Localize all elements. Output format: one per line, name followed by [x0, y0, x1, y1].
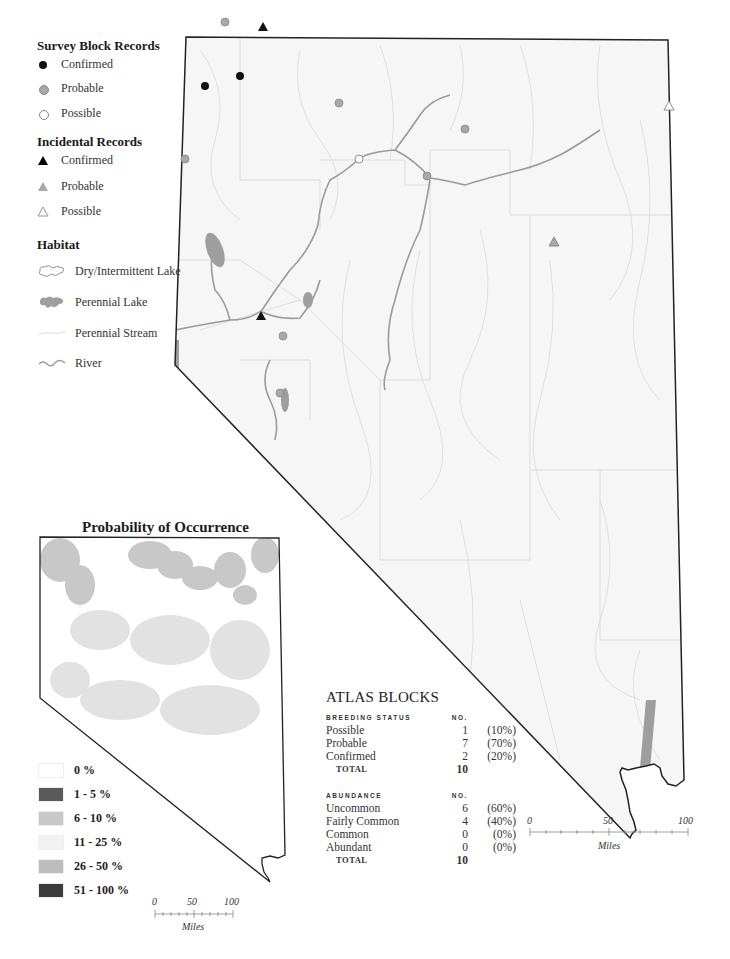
abundance-header-row: ABUNDANCE NO. — [326, 789, 516, 802]
table-row: Uncommon 6 (60%) — [326, 802, 516, 815]
legend-habitat-dry-lake: Dry/Intermittent Lake — [37, 263, 181, 279]
survey-possible-markers[interactable] — [355, 155, 363, 163]
main-scale-label-0: 0 — [527, 815, 532, 826]
abundance-total-row: TOTAL 10 — [326, 854, 516, 867]
probability-class-5: 51 - 100 % — [38, 878, 129, 902]
table-row: Confirmed 2 (20%) — [326, 750, 516, 763]
probability-class-4: 26 - 50 % — [38, 854, 129, 878]
breeding-total-row: TOTAL 10 — [326, 763, 516, 776]
swatch-icon — [38, 763, 64, 778]
main-scale-bar — [530, 828, 688, 836]
perennial-lake-icon — [37, 294, 67, 310]
probability-class-2: 6 - 10 % — [38, 806, 129, 830]
swatch-icon — [38, 787, 64, 802]
table-row: Possible 1 (10%) — [326, 724, 516, 737]
atlas-blocks-title: ATLAS BLOCKS — [326, 689, 439, 706]
breeding-header-row: BREEDING STATUS NO. — [326, 711, 516, 724]
legend-incidental-probable: Probable — [37, 179, 104, 194]
river-line-icon — [37, 355, 67, 371]
swatch-icon — [38, 859, 64, 874]
legend-incidental-heading: Incidental Records — [37, 134, 142, 150]
inset-scale-label-50: 50 — [187, 896, 197, 907]
swatch-icon — [38, 883, 64, 898]
filled-circle-icon — [37, 58, 51, 72]
atlas-blocks-table: BREEDING STATUS NO. Possible 1 (10%) Pro… — [326, 711, 516, 867]
gray-triangle-icon — [37, 180, 51, 194]
hollow-triangle-icon — [37, 205, 51, 219]
main-scale-label-50: 50 — [603, 815, 613, 826]
swatch-icon — [38, 811, 64, 826]
inset-scale-unit: Miles — [182, 921, 204, 932]
legend-incidental-possible: Possible — [37, 204, 101, 219]
probability-class-1: 1 - 5 % — [38, 782, 129, 806]
probability-class-3: 11 - 25 % — [38, 830, 129, 854]
probability-legend: 0 % 1 - 5 % 6 - 10 % 11 - 25 % 26 - 50 %… — [38, 758, 129, 902]
inset-scale-bar — [155, 910, 233, 918]
filled-triangle-icon — [37, 154, 51, 168]
gray-circle-icon — [37, 82, 51, 96]
inset-scale-label-0: 0 — [152, 896, 157, 907]
legend-habitat-perennial-stream: Perennial Stream — [37, 325, 157, 341]
legend-survey-confirmed: Confirmed — [37, 57, 113, 72]
main-scale-label-100: 100 — [678, 815, 693, 826]
probability-class-0: 0 % — [38, 758, 129, 782]
table-row: Probable 7 (70%) — [326, 737, 516, 750]
legend-habitat-perennial-lake: Perennial Lake — [37, 294, 147, 310]
legend-incidental-confirmed: Confirmed — [37, 153, 113, 168]
stream-line-icon — [37, 325, 67, 341]
inset-scale-label-100: 100 — [224, 896, 239, 907]
legend-habitat-heading: Habitat — [37, 237, 80, 253]
legend-survey-possible: Possible — [37, 106, 101, 121]
table-row: Fairly Common 4 (40%) — [326, 815, 516, 828]
dry-lake-icon — [37, 263, 67, 279]
legend-survey-probable: Probable — [37, 81, 104, 96]
table-row: Abundant 0 (0%) — [326, 841, 516, 854]
legend-survey-heading: Survey Block Records — [37, 38, 160, 54]
main-scale-unit: Miles — [598, 840, 620, 851]
hollow-circle-icon — [37, 107, 51, 121]
table-row: Common 0 (0%) — [326, 828, 516, 841]
legend-habitat-river: River — [37, 355, 102, 371]
swatch-icon — [38, 835, 64, 850]
probability-map-title: Probability of Occurrence — [82, 519, 249, 536]
